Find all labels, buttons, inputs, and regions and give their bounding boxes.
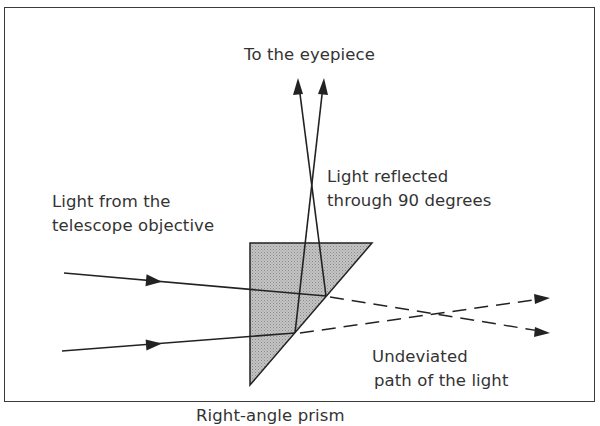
eyepiece-arrowheads	[293, 78, 328, 95]
undeviated-arrowheads	[534, 294, 550, 337]
prism-label: Right-angle prism	[196, 405, 345, 426]
undeviated-paths	[300, 297, 540, 333]
eyepiece-label: To the eyepiece	[244, 44, 375, 65]
reflected-label-line1: Light reflected	[327, 166, 448, 187]
objective-label-line1: Light from the	[52, 191, 171, 212]
direction-arrows	[146, 274, 163, 350]
right-angle-prism	[250, 243, 372, 385]
objective-label-line2: telescope objective	[52, 215, 214, 236]
undeviated-label-line2: path of the light	[374, 370, 509, 391]
reflected-label-line2: through 90 degrees	[327, 190, 492, 211]
undeviated-label-line1: Undeviated	[372, 346, 468, 367]
